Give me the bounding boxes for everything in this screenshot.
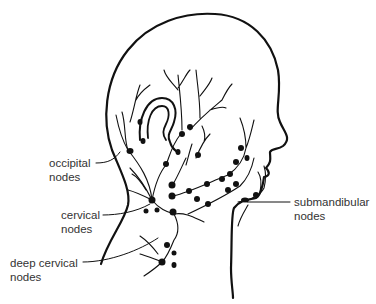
head-outline [101,14,287,298]
label-line: nodes [61,222,100,236]
label-line: submandibular [294,195,369,209]
lymph-node-diagram: occipital nodes cervical nodes deep cerv… [0,0,376,304]
submandibular-nodes-label: submandibular nodes [294,195,369,223]
ear-inner [148,106,169,140]
occipital-nodes-label: occipital nodes [49,156,91,184]
deep-cervical-nodes-label: deep cervical nodes [10,256,78,284]
cervical-nodes-label: cervical nodes [61,208,100,236]
label-line: deep cervical [10,256,78,270]
label-line: nodes [49,170,91,184]
label-line: nodes [294,209,369,223]
lymph-nodes [127,119,260,268]
label-line: cervical [61,208,100,222]
label-line: occipital [49,156,91,170]
label-line: nodes [10,270,78,284]
